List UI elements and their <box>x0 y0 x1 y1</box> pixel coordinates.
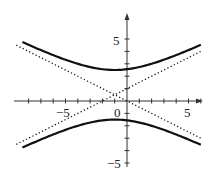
hyperbola-plot: −5 0 5 5 −5 <box>0 0 213 175</box>
axes <box>14 13 203 167</box>
x-tick-label-5: 5 <box>184 105 191 120</box>
x-axis-arrow-icon <box>196 99 203 104</box>
y-tick-label-neg5: −5 <box>107 156 121 171</box>
x-tick-label-neg5: −5 <box>56 105 70 120</box>
curves <box>16 42 201 147</box>
y-tick-label-5: 5 <box>113 33 120 48</box>
x-tick-label-0: 0 <box>114 105 121 120</box>
y-axis-arrow-icon <box>125 13 130 20</box>
hyperbola-upper-branch <box>22 42 200 70</box>
asymptote-2 <box>16 45 201 138</box>
asymptote-1 <box>16 51 201 144</box>
hyperbola-lower-branch <box>22 120 200 148</box>
